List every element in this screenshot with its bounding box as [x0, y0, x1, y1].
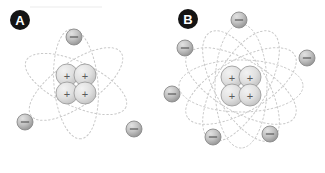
proton-sign: +: [82, 88, 88, 100]
proton: +: [239, 84, 261, 106]
diagram-canvas: ++++ A ++++ B: [0, 0, 325, 173]
atom-diagram-figure: ++++ A ++++ B: [0, 0, 325, 173]
orbit-path: [179, 60, 303, 112]
orbit-path: [215, 24, 267, 148]
nucleus-b: ++++: [221, 66, 261, 106]
electron-orbits-b: [174, 19, 307, 152]
proton-sign: +: [229, 72, 235, 84]
panel-b: ++++ B: [164, 9, 315, 153]
proton-sign: +: [64, 70, 70, 82]
proton-sign: +: [229, 90, 235, 102]
orbit-path: [18, 34, 133, 133]
nucleus-a: ++++: [56, 64, 96, 104]
electron: [66, 29, 82, 45]
panel-a: ++++ A: [10, 10, 142, 141]
proton-sign: +: [247, 72, 253, 84]
panel-label-badge-b: B: [178, 9, 198, 29]
orbit-path: [17, 41, 135, 127]
orbit-path: [174, 32, 307, 139]
orbit-path: [187, 19, 294, 152]
electron: [205, 129, 221, 145]
orbit-path: [174, 32, 307, 139]
panel-badge-label: A: [15, 13, 25, 28]
electron: [164, 86, 180, 102]
proton-sign: +: [64, 88, 70, 100]
proton-sign: +: [82, 70, 88, 82]
electron: [17, 114, 33, 130]
orbit-path: [187, 19, 294, 152]
panel-label-badge-a: A: [10, 10, 30, 30]
electron: [126, 121, 142, 137]
electron: [299, 50, 315, 66]
panel-badge-label: B: [183, 12, 192, 27]
electron: [231, 12, 247, 28]
electron: [177, 40, 193, 56]
proton: +: [74, 82, 96, 104]
electron: [262, 126, 278, 142]
proton-sign: +: [247, 90, 253, 102]
